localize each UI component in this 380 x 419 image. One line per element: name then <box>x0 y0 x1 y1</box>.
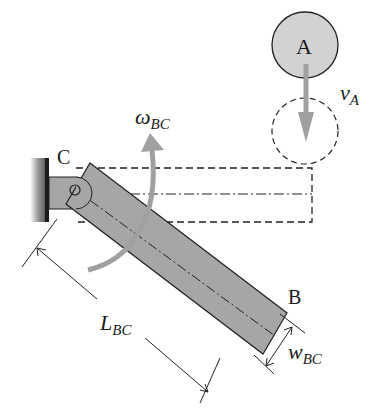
label-point-c: C <box>57 146 70 168</box>
fixed-wall <box>30 158 49 222</box>
label-velocity: vA <box>340 80 360 108</box>
label-point-a: A <box>296 34 312 59</box>
label-angular-velocity: ωBC <box>135 104 171 132</box>
mechanism-diagram: A C B vA ωBC LBC wBC <box>0 0 380 419</box>
label-width: wBC <box>288 339 323 367</box>
label-point-b: B <box>288 286 301 308</box>
label-length: LBC <box>99 310 132 338</box>
